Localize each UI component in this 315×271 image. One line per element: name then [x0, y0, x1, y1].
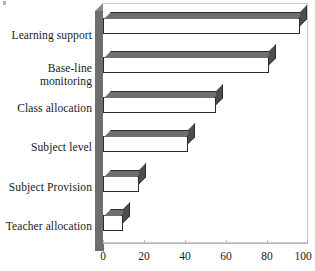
x-tick-label-80: 80 — [261, 249, 273, 263]
bars-layer — [0, 0, 315, 271]
bar-subject-level[interactable] — [103, 136, 188, 152]
bar-chart: Learning support Base-line monitoring Cl… — [0, 0, 315, 271]
bar-base-line-monitoring[interactable] — [103, 57, 269, 73]
bar-side-face — [269, 44, 276, 65]
bar-side-face — [300, 5, 307, 26]
bar-side-face — [188, 123, 195, 144]
bar-class-allocation[interactable] — [103, 97, 216, 113]
x-tick-label-20: 20 — [138, 249, 150, 263]
bar-learning-support[interactable] — [103, 18, 300, 34]
bar-top-face — [104, 130, 194, 137]
x-tick-label-60: 60 — [220, 249, 232, 263]
bar-subject-provision[interactable] — [103, 176, 139, 192]
x-tick-label-100: 100 — [294, 249, 311, 263]
bar-side-face — [139, 163, 146, 184]
bar-side-face — [123, 202, 130, 223]
bar-side-face — [216, 84, 223, 105]
value-axis-tick-labels: 0 20 40 60 80 100 — [0, 249, 315, 269]
x-tick-label-40: 40 — [179, 249, 191, 263]
x-tick-label-0: 0 — [100, 249, 106, 263]
bar-top-face — [104, 91, 222, 98]
bar-teacher-allocation[interactable] — [103, 215, 123, 231]
bar-top-face — [104, 12, 306, 19]
bar-top-face — [104, 51, 275, 58]
